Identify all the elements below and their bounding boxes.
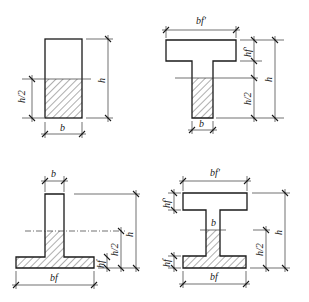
dimension-half-height: h/2 bbox=[254, 226, 269, 272]
label-height: h bbox=[124, 232, 135, 237]
label-web-width: b bbox=[211, 217, 216, 228]
dimension-flange-width: bf bbox=[12, 272, 98, 288]
label-flange-width: bf' bbox=[196, 15, 207, 26]
dimension-flange-thickness: hf bbox=[95, 253, 110, 272]
dimension-bottom-flange-thickness: hf bbox=[161, 252, 177, 272]
label-width: b bbox=[60, 122, 65, 133]
label-height: h bbox=[263, 77, 274, 82]
label-top-flange-width: bf' bbox=[210, 167, 221, 178]
hatched-zone bbox=[192, 78, 213, 118]
dimension-half-height: h/2 bbox=[16, 75, 35, 122]
dimension-half-height: h/2 bbox=[109, 227, 124, 272]
label-web-width: b bbox=[199, 118, 204, 129]
dimension-height: h bbox=[124, 190, 139, 272]
panel-t-section: bf' hf' h/2 h b bbox=[162, 15, 284, 134]
label-bottom-flange-thickness: hf bbox=[161, 258, 172, 267]
label-height: h bbox=[96, 78, 107, 83]
label-flange-thickness: hf bbox=[95, 259, 106, 268]
dimension-height: h bbox=[273, 189, 288, 272]
label-half-height: h/2 bbox=[254, 243, 265, 256]
label-top-flange-thickness: hf' bbox=[161, 197, 172, 208]
label-flange-width: bf bbox=[50, 272, 59, 283]
label-half-height: h/2 bbox=[242, 92, 253, 105]
dimension-width: b bbox=[41, 122, 86, 137]
cross-section-diagram: h/2 h b bbox=[0, 0, 309, 302]
label-bottom-flange-width: bf bbox=[210, 271, 219, 282]
hatched-zone bbox=[45, 79, 82, 118]
dimension-height: h bbox=[96, 35, 111, 122]
dimension-bottom-flange-width: bf bbox=[179, 271, 250, 287]
label-web-width: b bbox=[51, 168, 56, 179]
label-height: h bbox=[273, 230, 284, 235]
panel-rectangular-section: h/2 h b bbox=[16, 35, 113, 138]
hatched-zone bbox=[183, 230, 246, 268]
label-half-height: h/2 bbox=[16, 90, 27, 103]
panel-inverted-t-section: b hf h/2 h bf bbox=[12, 168, 140, 289]
label-half-height: h/2 bbox=[109, 243, 120, 256]
dimension-top-flange-width: bf' bbox=[179, 167, 251, 184]
panel-i-section: bf' hf' b hf h/2 h bbox=[161, 167, 290, 288]
dimension-flange-width: bf' bbox=[162, 15, 240, 33]
dimension-height: h bbox=[263, 36, 278, 122]
dimension-flange-thickness: hf' h/2 bbox=[242, 36, 257, 122]
hatched-zone bbox=[16, 231, 94, 268]
label-flange-thickness: hf' bbox=[242, 46, 253, 57]
